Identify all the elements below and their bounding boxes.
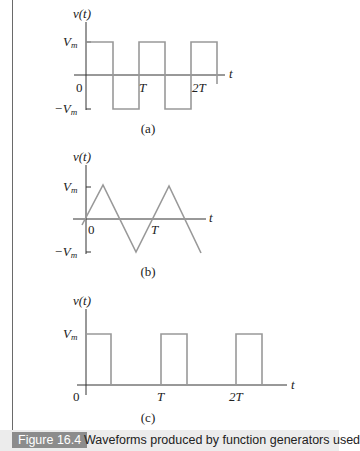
panel-a-sublabel: (a) [141,121,155,136]
panel-a-square-wave: v(t) t Vm −Vm 0 T 2T (a) [54,6,233,136]
panel-b-x-tick-T: T [151,222,159,237]
panel-a-x-tick-T: T [139,80,147,95]
panel-c-xlabel: t [291,377,295,392]
panel-c-pulse-train: v(t) t Vm 0 T 2T (c) [63,293,295,425]
panel-b-xlabel: t [209,210,213,225]
panel-c-vm-tick: Vm [63,326,78,342]
figure-number-label: Figure 16.4 [12,432,87,448]
panel-b-neg-vm-tick: −Vm [54,244,78,260]
panel-c-ylabel: v(t) [73,293,91,308]
panel-c-sublabel: (c) [141,410,155,425]
panel-a-x-tick-0: 0 [76,80,83,95]
panel-c-x-tick-T: T [157,389,165,404]
panel-a-vm-tick: Vm [63,34,78,50]
waveform-figure: v(t) t Vm −Vm 0 T 2T (a) v(t) t Vm −Vm 0… [0,0,339,430]
panel-a-neg-vm-tick: −Vm [54,101,78,117]
panel-b-triangle-wave: v(t) t Vm −Vm 0 T (b) [54,149,213,279]
panel-a-x-tick-2T: 2T [192,80,207,95]
panel-b-sublabel: (b) [140,264,155,279]
figure-caption: Waveforms produced by function generator… [84,432,360,448]
panel-c-x-tick-0: 0 [73,389,80,404]
panel-c-x-tick-2T: 2T [229,389,244,404]
panel-b-ylabel: v(t) [73,149,91,164]
panel-b-vm-tick: Vm [63,179,78,195]
panel-a-xlabel: t [229,66,233,81]
panel-a-ylabel: v(t) [73,6,91,21]
panel-b-x-tick-0: 0 [88,222,95,237]
